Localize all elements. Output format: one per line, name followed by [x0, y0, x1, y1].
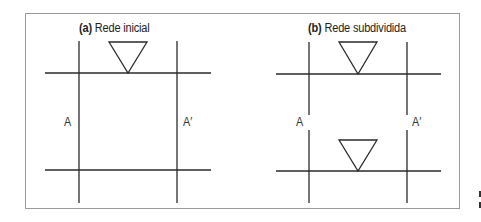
panel-b-triangle-top-icon	[339, 42, 377, 74]
panel-b-label-right: A′	[412, 115, 421, 129]
panel-b-triangle-bottom-icon	[339, 140, 377, 171]
panel-a-title: (a) Rede inicial	[79, 21, 150, 35]
panel-a-label-left: A	[64, 115, 71, 129]
panel-a-title-text: Rede inicial	[95, 21, 150, 35]
panel-b-title-text: Rede subdividida	[324, 21, 406, 35]
panel-a-tag: (a)	[79, 21, 92, 35]
panel-b-title: (b) Rede subdividida	[308, 21, 406, 35]
panel-a-label-right: A′	[183, 115, 192, 129]
panel-b-tag: (b)	[308, 21, 322, 35]
network-diagram	[0, 0, 481, 222]
panel-b-label-left: A	[296, 115, 303, 129]
panel-a-triangle-icon	[109, 42, 147, 73]
